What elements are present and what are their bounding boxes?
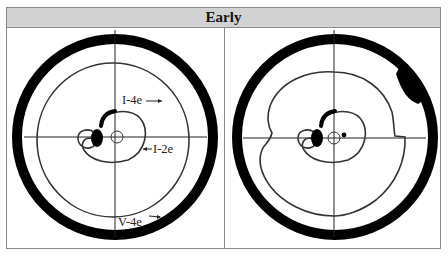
blind-spot-arc (101, 111, 115, 126)
label-v4e: V-4e (118, 215, 142, 229)
arrowhead-i4e (158, 99, 162, 103)
left-visual-field: I-4e I-2e V-4e (17, 30, 213, 237)
blind-spot (311, 129, 323, 147)
i2e-isopter (298, 112, 365, 163)
blind-spot (91, 129, 103, 147)
i4e-isopter (37, 63, 189, 217)
label-i4e: I-4e (122, 93, 143, 107)
right-visual-field (237, 30, 433, 237)
label-i2e: I-2e (153, 142, 174, 156)
arrowhead-i2e (143, 147, 147, 151)
scotoma-dot (342, 133, 347, 138)
blind-spot-arc (321, 111, 335, 126)
visual-field-diagrams: I-4e I-2e V-4e (0, 0, 448, 258)
